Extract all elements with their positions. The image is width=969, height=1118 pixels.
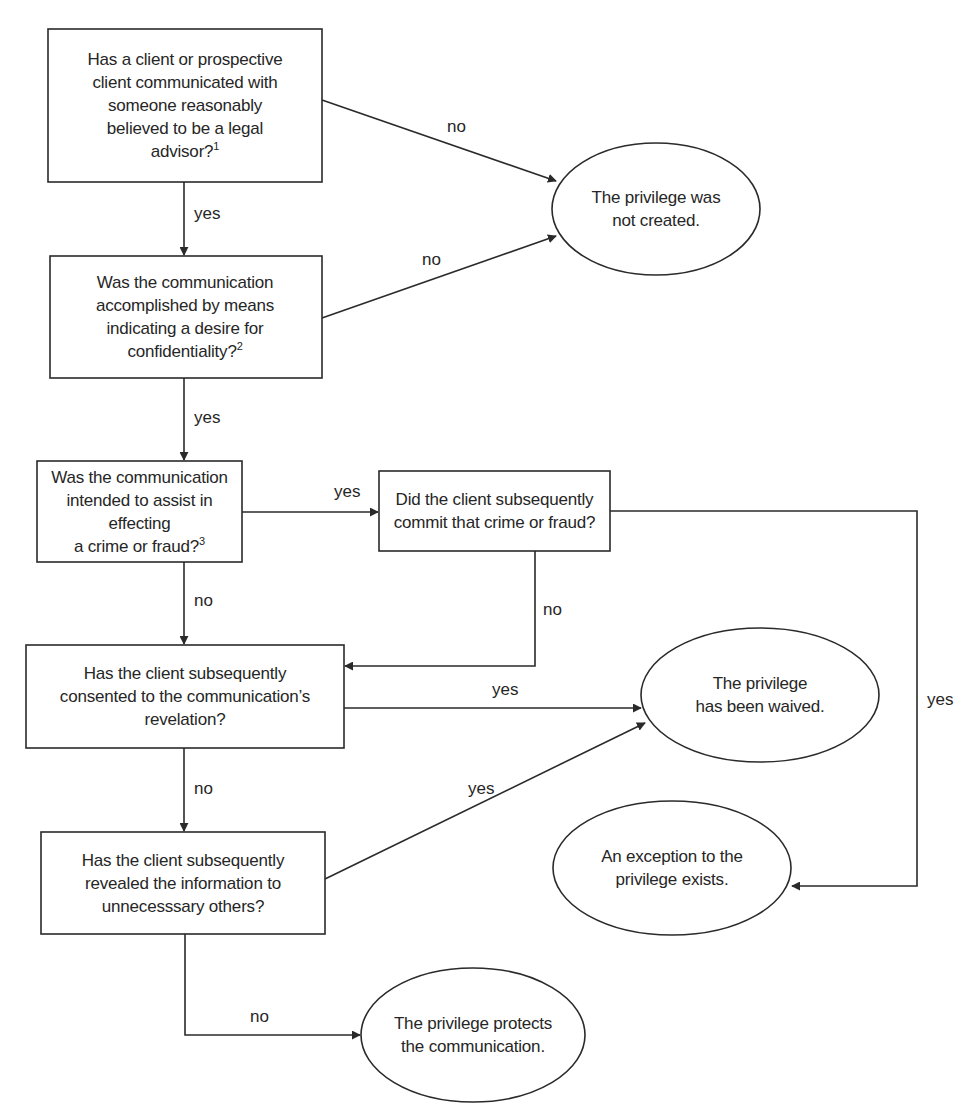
edge-label-q5-o2: yes [492, 680, 518, 700]
decision-q6: Has the client subsequently revealed the… [41, 832, 325, 934]
edge-label-q1-o1: no [447, 117, 466, 137]
edge-q6-o4 [185, 934, 360, 1035]
decision-q2: Was the communication accomplished by me… [50, 256, 320, 378]
edge-label-q6-o4: no [250, 1007, 269, 1027]
decision-q3: Was the communication intended to assist… [37, 461, 242, 562]
edge-label-q4-o3: yes [927, 690, 953, 710]
footnote-1: 1 [213, 140, 219, 152]
edge-label-q3-q5: no [194, 591, 213, 611]
edge-q4-q5 [345, 551, 535, 666]
edge-label-q2-o1: no [422, 250, 441, 270]
decision-q4: Did the client subsequently commit that … [379, 471, 610, 551]
edge-q2-o1 [322, 236, 556, 318]
decision-q1-text: Has a client or prospective client commu… [88, 50, 283, 161]
edge-label-q3-q4: yes [334, 482, 360, 502]
edge-label-q5-q6: no [194, 779, 213, 799]
outcome-o3-text: An exception to the privilege exists. [601, 845, 743, 891]
outcome-o2-text: The privilege has been waived. [695, 672, 824, 718]
outcome-o4: The privilege protects the communication… [361, 968, 585, 1102]
decision-q2-text: Was the communication accomplished by me… [96, 273, 274, 361]
edge-q1-o1-line [322, 100, 556, 181]
outcome-o4-text: The privilege protects the communication… [394, 1012, 552, 1058]
footnote-3: 3 [199, 535, 205, 547]
outcome-o1: The privilege was not created. [552, 143, 760, 275]
edge-label-q6-o2: yes [468, 779, 494, 799]
decision-q4-text: Did the client subsequently commit that … [394, 488, 596, 534]
footnote-2: 2 [237, 340, 243, 352]
outcome-o3: An exception to the privilege exists. [553, 801, 791, 935]
decision-q5-text: Has the client subsequently consented to… [60, 662, 310, 731]
edge-label-q1-q2: yes [194, 204, 220, 224]
decision-q1: Has a client or prospective client commu… [48, 29, 322, 182]
outcome-o2: The privilege has been waived. [641, 628, 879, 762]
outcome-o1-text: The privilege was not created. [592, 186, 721, 232]
edge-label-q2-q3: yes [194, 408, 220, 428]
decision-q5: Has the client subsequently consented to… [26, 645, 344, 748]
decision-q6-text: Has the client subsequently revealed the… [82, 849, 285, 918]
edge-label-q4-q5: no [543, 600, 562, 620]
